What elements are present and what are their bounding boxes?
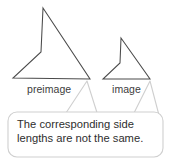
image-shape: [103, 38, 150, 79]
preimage-shape: [13, 8, 90, 79]
callout-line-2: lengths are not the same.: [17, 132, 153, 146]
image-label: image: [112, 83, 141, 95]
callout-text: The corresponding side lengths are not t…: [17, 118, 153, 145]
callout-line-1: The corresponding side: [17, 118, 153, 132]
preimage-label: preimage: [27, 83, 71, 95]
figure-container: preimage image The corresponding side le…: [0, 0, 169, 165]
